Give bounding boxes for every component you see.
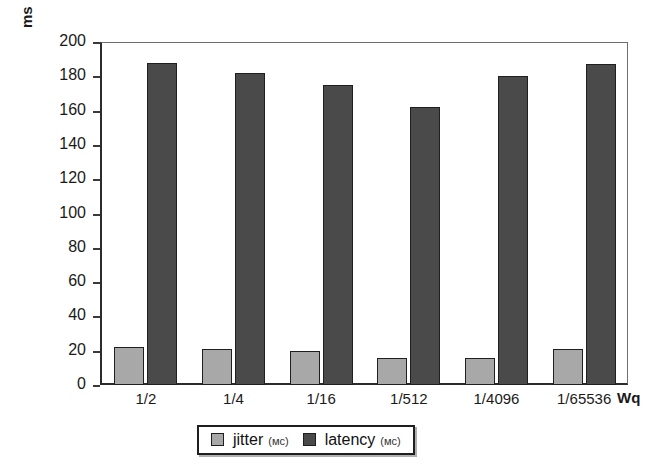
bar-group [465,42,528,385]
x-axis-ticks: 1/21/41/161/5121/40961/65536 [0,390,668,414]
y-axis-tick-label: 160 [59,101,86,119]
y-axis-tick-mark [93,179,100,181]
bar-latency [498,76,528,385]
x-axis-unit-label: Wq [617,389,640,406]
y-axis-tick-label: 140 [59,135,86,153]
x-axis-tick-label: 1/4096 [453,390,541,407]
y-axis-tick-label: 80 [68,238,86,256]
legend-swatch-icon [303,433,316,446]
legend-item: latency(мс) [303,431,401,449]
bar-chart: ms 020406080100120140160180200 1/21/41/1… [0,0,668,476]
y-axis-tick-mark [93,351,100,353]
bar-jitter [465,358,495,385]
x-axis-tick-label: 1/4 [190,390,278,407]
x-axis-tick-label: 1/512 [365,390,453,407]
y-axis-tick-label: 20 [68,341,86,359]
x-axis-tick-label: 1/16 [277,390,365,407]
bar-group [377,42,440,385]
y-axis-tick-mark [93,316,100,318]
bar-latency [323,85,353,385]
y-axis-tick-mark [93,214,100,216]
bar-latency [586,64,616,385]
bar-jitter [290,351,320,385]
y-axis-tick-mark [93,248,100,250]
y-axis-tick-label: 200 [59,32,86,50]
y-axis-tick-mark [93,42,100,44]
legend-swatch-icon [211,433,224,446]
y-axis-tick-label: 180 [59,66,86,84]
y-axis-tick-label: 100 [59,204,86,222]
bar-jitter [377,358,407,385]
bar-latency [147,63,177,385]
y-axis-tick-mark [93,76,100,78]
x-axis-tick-label: 1/2 [102,390,190,407]
bar-jitter [114,347,144,385]
y-axis-tick-label: 40 [68,306,86,324]
bar-group [114,42,177,385]
bar-group [553,42,616,385]
y-axis-tick-mark [93,385,100,387]
bar-latency [410,107,440,385]
bars-layer [102,42,628,385]
legend-label: latency [325,431,376,449]
y-axis-tick-label: 120 [59,169,86,187]
legend-unit: (мс) [268,435,288,447]
legend-label: jitter [233,431,263,449]
legend-item: jitter(мс) [211,431,289,449]
legend-unit: (мс) [380,435,400,447]
y-axis-tick-mark [93,111,100,113]
y-axis-tick-mark [93,145,100,147]
bar-latency [235,73,265,385]
bar-group [202,42,265,385]
x-axis-tick-label: 1/65536 [540,390,628,407]
chart-legend: jitter(мс)latency(мс) [197,425,415,455]
y-axis-tick-label: 60 [68,272,86,290]
bar-jitter [202,349,232,385]
bar-group [290,42,353,385]
y-axis-unit-label: ms [18,6,35,28]
y-axis-tick-mark [93,282,100,284]
bar-jitter [553,349,583,385]
